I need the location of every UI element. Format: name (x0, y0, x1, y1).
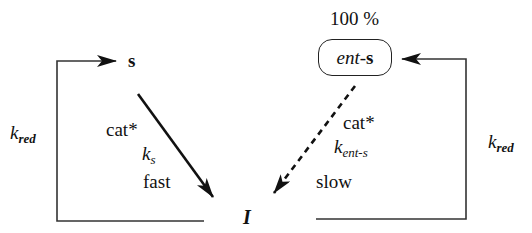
node-ent-s: ent-s (318, 39, 392, 76)
ent-s-percentage: 100 % (330, 9, 379, 28)
left-reduction-loop (57, 61, 204, 221)
rate-sub: ent-s (342, 145, 367, 160)
left-kred-label: kred (10, 123, 36, 142)
slow-speed-label: slow (316, 172, 352, 191)
slow-rate-label: kent-s (334, 137, 368, 156)
node-I: I (243, 207, 251, 227)
fast-catalyst-label: cat* (106, 120, 138, 139)
kred-sub: red (18, 131, 35, 146)
ent-s-prefix: ent (337, 47, 360, 69)
fast-rate-label: ks (142, 144, 156, 163)
node-s-label: s (128, 50, 135, 71)
right-kred-label: kred (488, 132, 514, 151)
node-s: s (128, 51, 135, 70)
node-I-label: I (243, 206, 251, 228)
ent-s-suffix: s (366, 47, 373, 69)
slow-catalyst-label: cat* (343, 113, 375, 132)
fast-speed-label: fast (143, 172, 170, 191)
diagram-lines (0, 0, 532, 233)
reaction-diagram: s 100 % ent-s I kred kred cat* ks fast c… (0, 0, 532, 233)
rate-sub: s (150, 152, 155, 167)
kred-sub: red (496, 140, 513, 155)
